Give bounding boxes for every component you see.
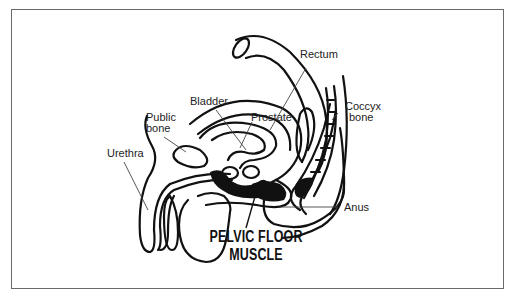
label-urethra: Urethra [107, 148, 144, 159]
label-rectum: Rectum [300, 49, 338, 60]
label-bladder: Bladder [190, 96, 228, 107]
bladder-shape [200, 123, 276, 168]
label-prostate: Prostate [251, 112, 292, 123]
label-coccyx-line2: bone [349, 112, 373, 123]
pubic-bone-shape [173, 146, 207, 167]
pelvic-floor-muscle-title-line1: PELVIC FLOOR [209, 228, 303, 245]
prostate-leader-line [240, 122, 252, 148]
label-anus: Anus [344, 202, 369, 213]
label-public-bone-line2: bone [146, 123, 170, 134]
pelvic-floor-muscle-title-line2: MUSCLE [209, 246, 303, 263]
